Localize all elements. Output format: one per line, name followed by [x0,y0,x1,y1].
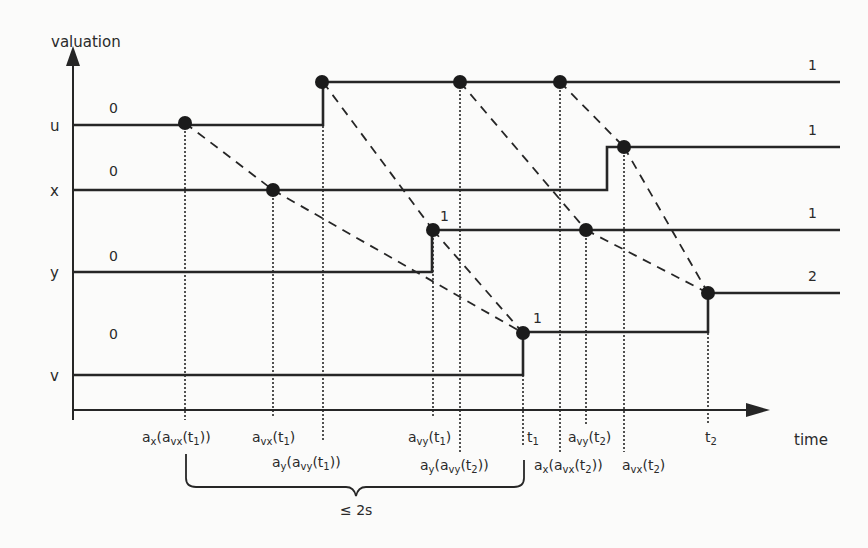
event-dot [426,223,440,237]
initial-value-u: 0 [109,100,118,116]
final-value-x: 1 [808,122,817,138]
time-label-ay-avy-t1: ay(avy(t1)) [272,454,341,472]
final-value-u: 1 [808,57,817,73]
time-label-avy-t2: avy(t2) [568,429,611,447]
x-axis-arrow-icon [746,403,770,417]
event-dot [617,140,631,154]
time-label-ax-avx-t1: ax(avx(t1)) [142,429,211,447]
event-dot [315,75,329,89]
time-label-avx-t1: avx(t1) [252,429,295,447]
event-dot [516,326,530,340]
time-label-t2: t2 [705,429,717,447]
signal-y [73,230,840,272]
time-label-ay-avy-t2: ay(avy(t2)) [420,457,489,475]
timing-diagram: valuation time u x y v 0 0 0 0 1 1 1 2 1… [0,0,868,548]
event-dot [553,75,567,89]
event-dot [266,183,280,197]
x-axis-label: time [794,431,828,449]
y-axis-label: valuation [51,33,121,51]
event-dot [579,223,593,237]
var-label-x: x [50,182,59,200]
final-value-y: 1 [808,205,817,221]
time-label-t1: t1 [527,429,539,447]
step-label-v: 1 [533,310,542,326]
initial-value-v: 0 [109,326,118,342]
time-label-avx-t2: avx(t2) [622,457,665,475]
signal-v [73,293,840,375]
var-label-v: v [50,367,59,385]
signal-x [73,147,840,190]
final-value-v: 2 [808,268,817,284]
event-dot [178,116,192,130]
dotted-guides [185,82,708,454]
var-label-u: u [50,117,60,135]
time-label-avy-t1: avy(t1) [408,429,451,447]
event-dot [453,75,467,89]
var-label-y: y [50,264,59,282]
step-label-y: 1 [440,208,449,224]
interval-brace-label: ≤ 2s [340,502,372,518]
initial-value-y: 0 [109,248,118,264]
event-dot [701,286,715,300]
y-axis: valuation [51,33,121,420]
time-label-ax-avx-t2: ax(avx(t2)) [534,457,603,475]
initial-value-x: 0 [109,163,118,179]
